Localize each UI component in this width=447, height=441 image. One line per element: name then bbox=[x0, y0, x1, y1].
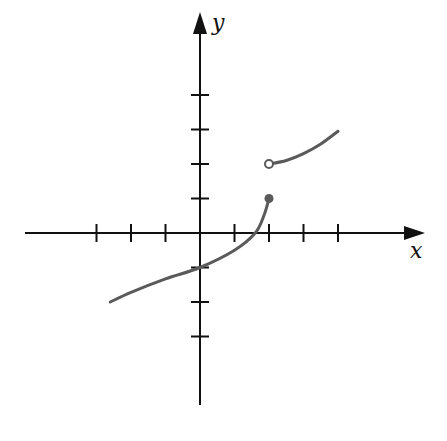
upper-branch-curve bbox=[269, 131, 338, 164]
endpoint-markers bbox=[265, 160, 274, 203]
y-axis-label: y bbox=[211, 10, 225, 35]
function-graph: y x bbox=[0, 0, 447, 441]
tick-marks bbox=[97, 95, 339, 337]
axes bbox=[25, 12, 425, 405]
open-dot-icon bbox=[265, 160, 273, 168]
x-axis-label: x bbox=[410, 238, 423, 263]
lower-branch-curve bbox=[110, 199, 269, 303]
curves bbox=[110, 131, 338, 302]
closed-dot-icon bbox=[265, 194, 274, 203]
y-axis-arrow-icon bbox=[193, 12, 207, 34]
